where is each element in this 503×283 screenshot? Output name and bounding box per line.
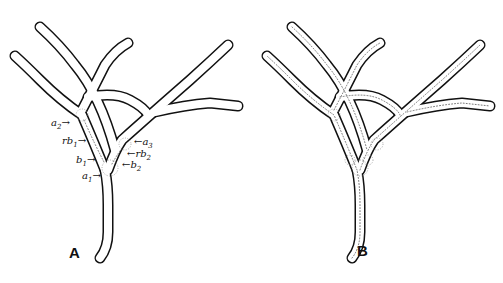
svg-text:←b2: ←b2 bbox=[122, 159, 142, 173]
svg-text:rb1→: rb1→ bbox=[62, 135, 87, 149]
svg-text:a1→: a1→ bbox=[82, 170, 101, 184]
annotation-a2: a2→ bbox=[51, 117, 70, 131]
specimen-b-drawing bbox=[267, 27, 490, 258]
annotation-a1: a1→ bbox=[82, 170, 101, 184]
specimen-a-drawing bbox=[15, 27, 238, 258]
panel-label-a: A bbox=[69, 244, 80, 261]
svg-text:b1→: b1→ bbox=[76, 154, 96, 168]
svg-text:a2→: a2→ bbox=[51, 117, 70, 131]
panel-label-b: B bbox=[357, 242, 368, 259]
annotation-b2: ←b2 bbox=[122, 159, 142, 173]
figure-canvas: a2→ rb1→ b1→ a1→ ←a3 ←rb2 ←b2 A B bbox=[0, 0, 503, 283]
annotation-rb1: rb1→ bbox=[62, 135, 87, 149]
annotation-b1: b1→ bbox=[76, 154, 96, 168]
